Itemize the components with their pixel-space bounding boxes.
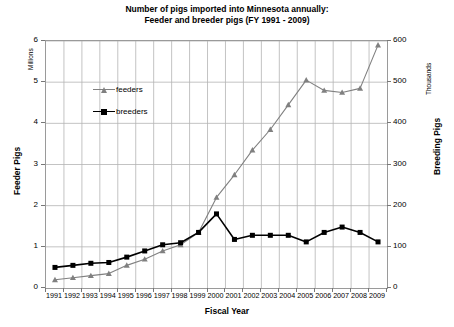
x-axis-tick-mark xyxy=(153,288,154,292)
x-axis-tick-mark xyxy=(350,288,351,292)
data-point-square-breeders xyxy=(358,230,363,235)
y-axis-right-tick-mark xyxy=(387,40,391,41)
y-axis-left-tick-label: 1 xyxy=(16,242,38,250)
x-axis-tick-mark xyxy=(386,288,387,292)
y-axis-right-tick-mark xyxy=(387,205,391,206)
x-axis-tick-mark xyxy=(207,288,208,292)
series-line-feeders xyxy=(55,45,378,280)
y-axis-right-tick-label: 300 xyxy=(393,160,419,168)
triangle-marker-icon xyxy=(101,87,107,93)
plot-area xyxy=(45,40,388,289)
chart-plot-svg xyxy=(46,41,387,288)
data-point-square-breeders xyxy=(196,230,201,235)
y-axis-right-tick-label: 400 xyxy=(393,118,419,126)
legend-item-breeders: breeders xyxy=(93,104,148,118)
data-point-square-breeders xyxy=(52,265,57,270)
y-axis-right-tick-mark xyxy=(387,246,391,247)
y-axis-right-tick-mark xyxy=(387,122,391,123)
data-point-square-breeders xyxy=(88,261,93,266)
x-axis-tick-mark xyxy=(99,288,100,292)
chart-title-line1: Number of pigs imported into Minnesota a… xyxy=(0,4,454,15)
chart-title-line2: Feeder and breeder pigs (FY 1991 - 2009) xyxy=(0,15,454,26)
y-axis-right-tick-label: 500 xyxy=(393,77,419,85)
square-marker-icon xyxy=(101,109,107,115)
y-axis-right-tick-label: 0 xyxy=(393,283,419,291)
y-axis-left-tick-mark xyxy=(41,205,45,206)
y-axis-left-tick-mark xyxy=(41,122,45,123)
data-point-square-breeders xyxy=(376,239,381,244)
y-axis-right-tick-mark xyxy=(387,81,391,82)
data-point-square-breeders xyxy=(250,233,255,238)
x-axis-tick-mark xyxy=(63,288,64,292)
chart-title: Number of pigs imported into Minnesota a… xyxy=(0,4,454,26)
y-axis-right-tick-mark xyxy=(387,287,391,288)
data-point-square-breeders xyxy=(160,242,165,247)
data-point-square-breeders xyxy=(340,225,345,230)
y-axis-left-tick-mark xyxy=(41,246,45,247)
data-point-triangle-feeders xyxy=(142,256,148,261)
y-axis-right-tick-label: 100 xyxy=(393,242,419,250)
x-axis-tick-mark xyxy=(368,288,369,292)
y-axis-right-title: Breeding Pigs xyxy=(432,118,442,175)
data-point-square-breeders xyxy=(214,211,219,216)
x-axis-tick-mark xyxy=(332,288,333,292)
legend-key-feeders xyxy=(93,85,115,94)
data-point-triangle-feeders xyxy=(375,42,381,47)
y-axis-left-tick-mark xyxy=(41,81,45,82)
y-axis-right-tick-mark xyxy=(387,164,391,165)
x-axis-tick-mark xyxy=(81,288,82,292)
x-axis-tick-label: 2009 xyxy=(362,292,392,300)
y-axis-right-unit: Thousands xyxy=(425,63,432,95)
x-axis-tick-mark xyxy=(242,288,243,292)
data-point-square-breeders xyxy=(142,248,147,253)
x-axis-title: Fiscal Year xyxy=(0,306,454,316)
legend-key-breeders xyxy=(93,107,115,116)
data-point-square-breeders xyxy=(178,240,183,245)
data-point-square-breeders xyxy=(304,239,309,244)
x-axis-tick-mark xyxy=(117,288,118,292)
y-axis-left-tick-mark xyxy=(41,40,45,41)
y-axis-left-tick-label: 0 xyxy=(16,283,38,291)
data-point-square-breeders xyxy=(322,230,327,235)
x-axis-tick-mark xyxy=(296,288,297,292)
chart-legend: feeders breeders xyxy=(93,82,148,126)
x-axis-tick-mark xyxy=(224,288,225,292)
x-axis-tick-mark xyxy=(314,288,315,292)
data-point-square-breeders xyxy=(70,263,75,268)
y-axis-left-tick-label: 2 xyxy=(16,201,38,209)
data-point-triangle-feeders xyxy=(303,77,309,82)
y-axis-left-tick-label: 4 xyxy=(16,118,38,126)
y-axis-right-tick-label: 200 xyxy=(393,201,419,209)
x-axis-tick-mark xyxy=(135,288,136,292)
x-axis-tick-mark xyxy=(45,288,46,292)
data-point-square-breeders xyxy=(232,237,237,242)
y-axis-left-tick-label: 6 xyxy=(16,36,38,44)
y-axis-left-tick-label: 5 xyxy=(16,77,38,85)
legend-label-breeders: breeders xyxy=(116,107,148,116)
data-point-square-breeders xyxy=(286,233,291,238)
series-line-breeders xyxy=(55,214,378,268)
legend-item-feeders: feeders xyxy=(93,82,148,96)
data-point-square-breeders xyxy=(106,260,111,265)
chart-container: Number of pigs imported into Minnesota a… xyxy=(0,0,454,327)
y-axis-right-tick-label: 600 xyxy=(393,36,419,44)
y-axis-left-tick-mark xyxy=(41,164,45,165)
y-axis-left-unit: Millions xyxy=(27,48,34,70)
data-point-triangle-feeders xyxy=(357,85,363,90)
data-point-square-breeders xyxy=(124,255,129,260)
x-axis-tick-mark xyxy=(260,288,261,292)
x-axis-tick-mark xyxy=(189,288,190,292)
legend-label-feeders: feeders xyxy=(116,85,143,94)
y-axis-left-title: Feeder Pigs xyxy=(12,147,22,195)
data-point-square-breeders xyxy=(268,233,273,238)
x-axis-tick-mark xyxy=(278,288,279,292)
x-axis-tick-mark xyxy=(171,288,172,292)
